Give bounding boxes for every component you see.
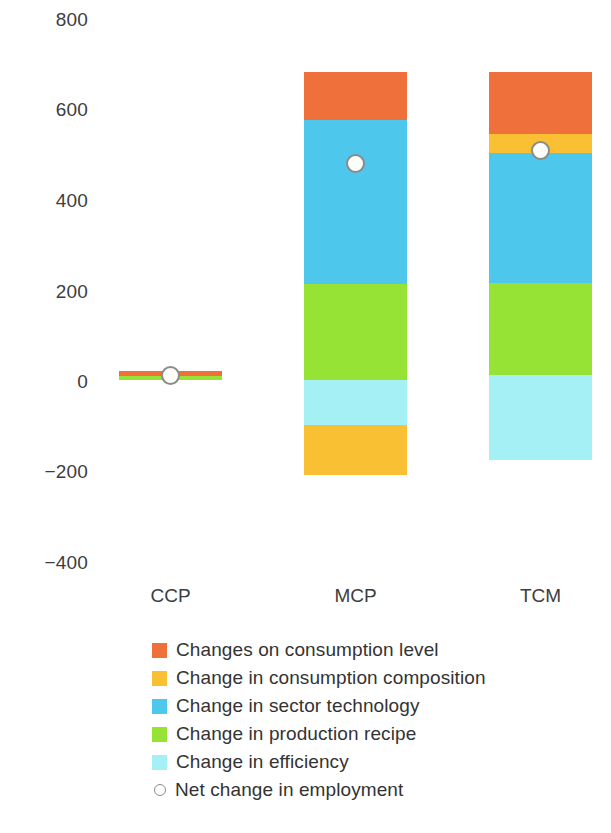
segment-consumption-level — [489, 72, 592, 134]
segment-production-recipe — [304, 284, 407, 380]
segment-efficiency — [304, 380, 407, 425]
segment-sector-technology — [489, 153, 592, 283]
legend-swatch-icon — [152, 699, 167, 714]
legend-item-label: Change in production recipe — [176, 723, 416, 745]
net-change-marker-mcp — [346, 154, 365, 173]
plot-area: 800 600 400 200 0 −200 −400 — [0, 0, 611, 580]
y-tick-label: 600 — [56, 99, 88, 121]
net-change-marker-ccp — [161, 366, 180, 385]
segment-production-recipe — [489, 283, 592, 375]
legend-item-consumption-composition: Change in consumption composition — [152, 664, 611, 692]
x-label-ccp: CCP — [119, 585, 222, 607]
x-label-mcp: MCP — [304, 585, 407, 607]
y-tick-label: 200 — [56, 281, 88, 303]
bar-tcm — [489, 72, 592, 460]
y-tick-label: −400 — [44, 552, 88, 574]
segment-consumption-composition — [304, 425, 407, 475]
legend-item-label: Change in efficiency — [176, 751, 349, 773]
legend-item-consumption-level: Changes on consumption level — [152, 636, 611, 664]
legend-item-production-recipe: Change in production recipe — [152, 720, 611, 748]
segment-consumption-level — [304, 72, 407, 120]
legend-swatch-icon — [152, 643, 167, 658]
legend-item-sector-technology: Change in sector technology — [152, 692, 611, 720]
legend-item-label: Changes on consumption level — [176, 639, 439, 661]
y-tick-label: 800 — [56, 9, 88, 31]
legend-item-net-change-employment: Net change in employment — [152, 776, 611, 804]
chart-legend: Changes on consumption level Change in c… — [152, 636, 611, 804]
segment-efficiency — [489, 375, 592, 460]
legend-swatch-icon — [152, 727, 167, 742]
legend-swatch-icon — [152, 755, 167, 770]
legend-swatch-icon — [152, 671, 167, 686]
legend-item-efficiency: Change in efficiency — [152, 748, 611, 776]
segment-sector-technology — [304, 120, 407, 284]
stacked-bar-chart: 800 600 400 200 0 −200 −400 — [0, 0, 611, 833]
x-label-tcm: TCM — [489, 585, 592, 607]
y-tick-label: 400 — [56, 190, 88, 212]
legend-item-label: Net change in employment — [175, 779, 403, 801]
legend-item-label: Change in sector technology — [176, 695, 420, 717]
bar-mcp — [304, 72, 407, 475]
y-tick-label: −200 — [44, 461, 88, 483]
y-tick-label: 0 — [77, 371, 88, 393]
net-change-marker-tcm — [531, 141, 550, 160]
open-circle-icon — [154, 784, 166, 796]
legend-item-label: Change in consumption composition — [176, 667, 486, 689]
